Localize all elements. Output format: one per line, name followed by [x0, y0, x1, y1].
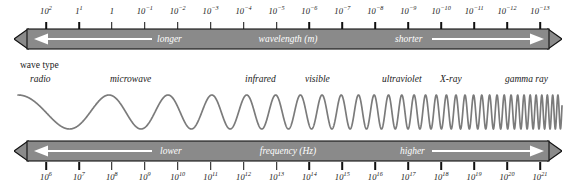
spectrum-wave — [0, 86, 575, 138]
wavelength-tick-label: 10−11 — [465, 6, 484, 16]
wavelength-tick-label: 10−7 — [334, 6, 350, 16]
wavelength-tick-label: 10−2 — [170, 6, 186, 16]
wavelength-tick-label: 10−12 — [497, 6, 516, 16]
frequency-tick-label: 1019 — [467, 172, 482, 182]
frequency-tick — [473, 162, 475, 170]
frequency-tick-marks — [0, 162, 575, 171]
frequency-tick-label: 1018 — [434, 172, 449, 182]
frequency-arrow-bar: lower frequency (Hz) higher — [14, 140, 562, 162]
wave-type-header: wave type — [20, 60, 59, 70]
wave-curve-path — [18, 95, 562, 129]
frequency-tick-label: 1020 — [500, 172, 515, 182]
wavelength-tick-label: 10−8 — [367, 6, 383, 16]
wavelength-tick-label: 10−6 — [301, 6, 317, 16]
frequency-tick-label: 1014 — [302, 172, 317, 182]
wave-type-x-ray: X-ray — [440, 74, 462, 84]
frequency-tick-label: 1016 — [368, 172, 383, 182]
wave-type-microwave: microwave — [110, 74, 151, 84]
frequency-tick-label: 1012 — [236, 172, 251, 182]
frequency-unit-label: frequency (Hz) — [14, 140, 562, 162]
frequency-tick-label: 1021 — [532, 172, 547, 182]
frequency-tick — [407, 162, 409, 170]
wavelength-tick-label: 10−4 — [236, 6, 252, 16]
wavelength-tick-label: 102 — [40, 6, 52, 16]
frequency-tick — [440, 162, 442, 170]
em-spectrum-diagram: 10211110−110−210−310−410−510−610−710−810… — [0, 0, 575, 190]
wavelength-arrow-bar: longer wavelength (m) shorter — [14, 28, 562, 50]
wavelength-tick-label: 10−9 — [400, 6, 416, 16]
frequency-tick — [243, 162, 245, 170]
frequency-tick-label: 109 — [139, 172, 151, 182]
frequency-tick — [375, 162, 377, 170]
wavelength-tick-label: 10−10 — [432, 6, 451, 16]
frequency-tick-label: 107 — [73, 172, 85, 182]
frequency-tick-label: 106 — [40, 172, 52, 182]
wavelength-tick-label: 1 — [110, 6, 114, 16]
wave-type-ultraviolet: ultraviolet — [382, 74, 422, 84]
wavelength-tick-label: 11 — [75, 6, 83, 16]
wave-curve-svg — [0, 86, 575, 138]
wavelength-tick-label: 10−1 — [137, 6, 153, 16]
wave-type-infrared: infrared — [245, 74, 276, 84]
frequency-tick — [506, 162, 508, 170]
frequency-tick — [78, 162, 80, 170]
frequency-tick-labels: 1061071081091010101110121013101410151016… — [0, 172, 575, 188]
frequency-tick-label: 1013 — [269, 172, 284, 182]
frequency-tick — [539, 162, 541, 170]
frequency-tick-label: 1015 — [335, 172, 350, 182]
frequency-tick — [144, 162, 146, 170]
frequency-tick-label: 1010 — [170, 172, 185, 182]
frequency-higher-label: higher — [400, 140, 425, 162]
wavelength-shorter-label: shorter — [395, 28, 422, 50]
wavelength-tick-label: 10−13 — [530, 6, 549, 16]
wavelength-tick-label: 10−5 — [268, 6, 284, 16]
wavelength-tick-label: 10−3 — [203, 6, 219, 16]
wave-type-radio: radio — [30, 74, 51, 84]
wave-type-visible: visible — [305, 74, 330, 84]
frequency-tick — [309, 162, 311, 170]
wave-type-gamma-ray: gamma ray — [505, 74, 548, 84]
wavelength-tick-labels: 10211110−110−210−310−410−510−610−710−810… — [0, 6, 575, 22]
frequency-tick — [45, 162, 47, 170]
frequency-tick-label: 1011 — [203, 172, 218, 182]
frequency-tick — [342, 162, 344, 170]
frequency-tick — [210, 162, 212, 170]
wavelength-unit-label: wavelength (m) — [14, 28, 562, 50]
frequency-tick — [111, 162, 113, 170]
frequency-tick — [276, 162, 278, 170]
frequency-tick-label: 1017 — [401, 172, 416, 182]
frequency-tick-label: 108 — [106, 172, 118, 182]
frequency-tick — [177, 162, 179, 170]
